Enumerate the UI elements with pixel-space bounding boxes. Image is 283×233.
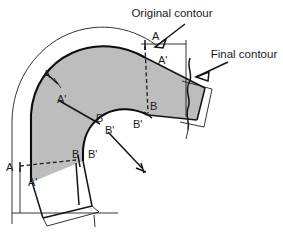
point-label-a-prime-top: A' [158,54,167,66]
point-label-a-prime-left-arc: A' [57,93,66,105]
bottom-leg-outer-ref-left-side [43,218,47,226]
point-label-b-prime-right: B' [133,118,142,130]
radial-leader-center [108,132,142,168]
bottom-leg-outer-ref-right-side [92,206,99,212]
point-label-b-prime-bottom: B' [88,148,97,160]
figure-canvas: Original contour Final contour A A' A A'… [0,0,283,233]
point-label-a-bottom: A [6,161,14,173]
point-label-b-right: B [150,100,157,112]
original-contour-label: Original contour [131,7,212,19]
right-leg-break-tail [186,130,188,139]
point-label-a-top: A [152,30,160,42]
machined-band-fill [31,46,205,182]
bottom-leg-right-edge [83,161,92,206]
bottom-leg-outer-ref-left [47,212,99,226]
point-label-b-mid: B [96,112,103,124]
point-label-a-left-arc: A [43,68,51,80]
point-label-a-prime-bottom: A' [28,176,37,188]
final-contour-label: Final contour [211,48,278,60]
contour-diagram: Original contour Final contour A A' A A'… [0,0,283,233]
right-leg-outer-ref-side [204,89,212,127]
right-leg-outer-ref-lower [180,122,204,127]
point-label-b-prime-mid: B' [105,124,114,136]
point-label-b-bottom: B [72,148,79,160]
bottom-leg-break-tail [94,215,95,227]
bottom-leg-inner-rib [76,163,79,205]
machined-band-group [31,46,205,182]
